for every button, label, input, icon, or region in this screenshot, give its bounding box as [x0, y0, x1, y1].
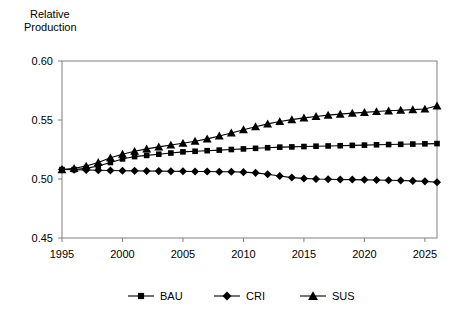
series-marker-bau [362, 142, 368, 148]
y-tick-label: 0.60 [32, 55, 53, 67]
series-marker-cri [300, 174, 308, 182]
series-marker-sus [433, 101, 442, 109]
series-marker-bau [216, 147, 222, 153]
legend-label-sus: SUS [332, 290, 355, 302]
series-marker-cri [155, 167, 163, 175]
series-marker-bau [241, 146, 247, 152]
series-line-bau [62, 144, 437, 170]
series-marker-bau [144, 153, 150, 159]
series-marker-bau [386, 142, 392, 148]
legend-label-bau: BAU [160, 290, 183, 302]
series-marker-bau [313, 143, 319, 149]
series-marker-bau [398, 142, 404, 148]
series-marker-bau [410, 141, 416, 147]
legend-label-cri: CRI [246, 290, 265, 302]
series-marker-bau [289, 144, 295, 150]
series-marker-bau [277, 144, 283, 150]
legend-marker-cri [223, 292, 232, 301]
series-marker-bau [168, 150, 174, 156]
series-marker-cri [118, 167, 126, 175]
series-marker-cri [179, 167, 187, 175]
x-tick-label: 2005 [171, 248, 195, 260]
series-marker-bau [265, 145, 271, 151]
series-marker-bau [253, 146, 259, 152]
series-marker-cri [433, 178, 441, 186]
series-marker-cri [239, 168, 247, 176]
legend-marker-bau [138, 293, 144, 299]
series-marker-cri [372, 176, 380, 184]
series-marker-bau [192, 148, 198, 154]
x-tick-label: 2000 [110, 248, 134, 260]
series-marker-cri [167, 167, 175, 175]
x-tick-label: 2025 [413, 248, 437, 260]
series-marker-bau [325, 143, 331, 149]
y-tick-label: 0.50 [32, 173, 53, 185]
series-marker-cri [397, 177, 405, 185]
series-marker-bau [434, 141, 440, 147]
series-marker-bau [180, 149, 186, 155]
x-tick-label: 2010 [231, 248, 255, 260]
x-tick-label: 1995 [50, 248, 74, 260]
chart-container: Relative Production 0.450.500.550.601995… [0, 0, 450, 323]
series-marker-bau [337, 143, 343, 149]
series-marker-cri [288, 174, 296, 182]
x-tick-label: 2020 [352, 248, 376, 260]
series-marker-cri [106, 166, 114, 174]
series-marker-cri [336, 175, 344, 183]
series-marker-bau [301, 144, 307, 150]
plot-frame [62, 61, 437, 238]
series-marker-cri [360, 176, 368, 184]
series-marker-cri [203, 168, 211, 176]
x-tick-label: 2015 [292, 248, 316, 260]
series-marker-bau [156, 151, 162, 157]
series-marker-bau [204, 148, 210, 154]
series-line-cri [62, 170, 437, 183]
series-marker-cri [409, 177, 417, 185]
series-marker-cri [191, 167, 199, 175]
series-marker-bau [374, 142, 380, 148]
series-marker-bau [229, 147, 235, 153]
series-marker-cri [215, 168, 223, 176]
series-marker-cri [227, 168, 235, 176]
series-marker-cri [143, 167, 151, 175]
series-marker-cri [131, 167, 139, 175]
series-marker-cri [348, 176, 356, 184]
line-chart-plot: 0.450.500.550.60199520002005201020152020… [0, 0, 450, 323]
series-marker-bau [350, 143, 356, 149]
series-marker-cri [324, 175, 332, 183]
series-marker-sus [94, 158, 103, 166]
series-marker-cri [385, 176, 393, 184]
y-tick-label: 0.45 [32, 232, 53, 244]
series-marker-cri [264, 170, 272, 178]
y-tick-label: 0.55 [32, 114, 53, 126]
series-marker-cri [312, 175, 320, 183]
series-marker-cri [94, 166, 102, 174]
series-marker-bau [422, 141, 428, 147]
series-marker-cri [276, 172, 284, 180]
series-marker-cri [421, 177, 429, 185]
series-marker-cri [252, 169, 260, 177]
